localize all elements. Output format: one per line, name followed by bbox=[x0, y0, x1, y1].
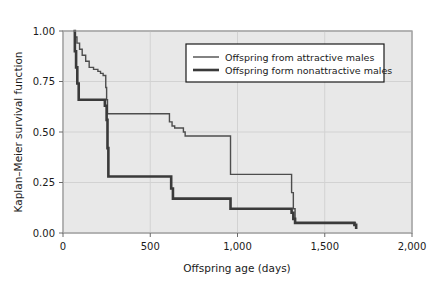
legend-label-attractive: Offspring from attractive males bbox=[225, 52, 374, 63]
y-tick-label: 0.50 bbox=[33, 127, 55, 138]
y-axis-tick-labels: 0.000.250.500.751.00 bbox=[33, 26, 63, 239]
y-tick-label: 0.25 bbox=[33, 177, 55, 188]
x-axis-title: Offspring age (days) bbox=[183, 262, 290, 274]
kaplan-meier-chart: 0.000.250.500.751.00 05001,0001,5002,000… bbox=[0, 0, 433, 281]
y-tick-label: 0.75 bbox=[33, 76, 55, 87]
y-tick-label: 0.00 bbox=[33, 228, 55, 239]
legend-box bbox=[186, 44, 384, 82]
x-tick-label: 1,500 bbox=[310, 241, 339, 252]
x-tick-label: 0 bbox=[60, 241, 66, 252]
y-axis-title: Kaplan–Meier survival function bbox=[12, 52, 24, 213]
y-tick-label: 1.00 bbox=[33, 26, 55, 37]
x-tick-label: 1,000 bbox=[223, 241, 252, 252]
chart-legend: Offspring from attractive males Offsprin… bbox=[186, 44, 392, 82]
x-axis-tick-labels: 05001,0001,5002,000 bbox=[60, 233, 427, 252]
legend-label-nonattractive: Offspring form nonattractive males bbox=[225, 65, 392, 76]
x-tick-label: 2,000 bbox=[398, 241, 427, 252]
x-tick-label: 500 bbox=[141, 241, 160, 252]
chart-figure: 0.000.250.500.751.00 05001,0001,5002,000… bbox=[0, 0, 433, 281]
